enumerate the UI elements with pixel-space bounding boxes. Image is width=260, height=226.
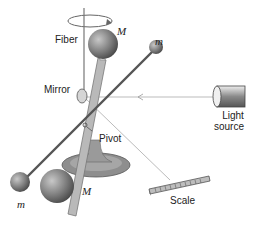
label-small-mass-bottom: m <box>17 199 25 210</box>
label-scale: Scale <box>170 195 195 206</box>
cavendish-diagram: Fiber M m Mirror Pivot Light source Scal… <box>0 0 260 226</box>
label-light-source-line2: source <box>214 121 244 132</box>
stand-base <box>62 140 130 177</box>
label-light-source-line1: Light <box>219 110 247 121</box>
large-mass-top <box>88 29 118 59</box>
mirror <box>77 89 87 103</box>
light-source <box>213 86 245 107</box>
label-large-mass-bottom: M <box>82 186 91 197</box>
label-large-mass-top: M <box>117 26 126 37</box>
label-mirror: Mirror <box>44 84 70 95</box>
label-fiber: Fiber <box>55 34 78 45</box>
label-small-mass-top: m <box>155 36 163 47</box>
large-mass-bottom <box>40 169 74 203</box>
rotation-arrow-icon <box>68 15 112 27</box>
label-pivot: Pivot <box>99 133 121 144</box>
scale <box>149 176 210 196</box>
small-mass-bottom <box>10 172 30 192</box>
